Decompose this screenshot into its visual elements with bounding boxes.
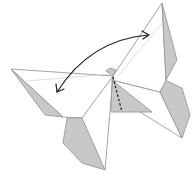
body-edge	[105, 76, 113, 170]
bottom-left-flap	[63, 118, 105, 170]
left-wing	[11, 69, 113, 118]
origami-diagram	[0, 0, 193, 179]
right-wing	[112, 3, 166, 92]
